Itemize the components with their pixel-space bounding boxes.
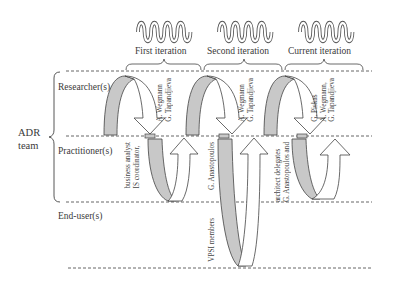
current-practitioners-names: architect delegates G. Anastopoulos and — [274, 142, 291, 202]
connector-1 — [145, 134, 155, 138]
iteration-label-first: First iteration — [135, 46, 186, 56]
coil-icon-first — [138, 23, 190, 41]
connector-3 — [297, 134, 307, 138]
arrow-white-up-1 — [168, 138, 198, 201]
adr-diagram-canvas — [0, 0, 395, 283]
role-label-researchers: Researcher(s) — [58, 82, 110, 92]
first-practitioners-names: business analyst IS coordinator, — [124, 142, 141, 189]
role-label-end-users: End-user(s) — [58, 211, 102, 221]
iteration-label-current: Current iteration — [288, 46, 351, 56]
arrow-white-up-3 — [312, 139, 350, 199]
role-label-practitioners: Practitioner(s) — [58, 146, 112, 156]
current-researchers-names: G. Piskas A. Wegmann, G. Tapandjieva — [311, 78, 337, 122]
iteration-braces — [126, 59, 363, 70]
coil-icon-current — [300, 23, 352, 41]
second-practitioners-names: G. Anastopoulos — [208, 142, 217, 190]
coil-icon-second — [219, 23, 271, 41]
iteration-label-second: Second iteration — [207, 46, 269, 56]
arrow-shaded-r3 — [264, 76, 294, 135]
arrow-shaded-p3 — [292, 139, 320, 199]
connector-2 — [219, 134, 229, 138]
group-label-adr: ADR — [18, 127, 40, 138]
group-label-team: team — [18, 140, 38, 151]
second-end-users-names: VPSI members — [208, 218, 217, 262]
arrow-shaded-r2 — [186, 76, 216, 135]
arrow-shaded-p2 — [218, 139, 246, 266]
arrow-shaded-p1 — [148, 139, 176, 201]
first-researchers-names: A. Wegmann G. Tapandjieva — [156, 78, 173, 122]
second-researchers-names: A. Wegmann G. Tapandjieva — [238, 78, 255, 122]
